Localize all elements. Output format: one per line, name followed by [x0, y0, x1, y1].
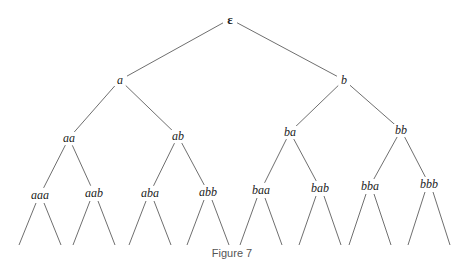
tree-edge — [154, 143, 175, 186]
tree-edge — [374, 137, 397, 179]
tree-edge — [74, 86, 114, 132]
tree-edge — [405, 137, 426, 177]
tree-node-aab: aab — [84, 187, 104, 199]
leaf-stub-edge — [299, 196, 316, 245]
leaf-stub-edge — [73, 201, 90, 245]
tree-node-ab: ab — [171, 130, 185, 142]
tree-node-a: a — [116, 74, 124, 86]
tree-node-b: b — [340, 74, 348, 86]
tree-node-root: ε — [226, 13, 234, 26]
tree-edge — [44, 145, 66, 188]
tree-node-aa: aa — [62, 132, 76, 144]
leaf-stub-edge — [374, 194, 391, 245]
leaf-stub-edge — [240, 198, 257, 245]
tree-edge — [350, 85, 395, 124]
tree-edge — [296, 86, 338, 127]
tree-node-bb: bb — [394, 124, 408, 136]
tree-edge — [265, 139, 287, 183]
leaf-stub-edge — [98, 201, 115, 245]
leaf-stub-edge — [44, 203, 61, 245]
leaf-stub-edge — [265, 198, 282, 245]
tree-diagram: εabaaabbabbaaaaababaabbbaababbbabbb Figu… — [0, 0, 464, 270]
tree-edge — [72, 145, 90, 185]
leaf-stub-edge — [433, 192, 450, 245]
leaf-stub-edge — [187, 200, 204, 245]
leaf-stub-edge — [19, 203, 36, 245]
tree-edge — [127, 23, 223, 76]
leaf-stub-edge — [324, 196, 341, 245]
tree-node-baa: baa — [251, 184, 271, 196]
tree-node-bbb: bbb — [419, 178, 439, 190]
tree-edge — [182, 143, 204, 185]
tree-node-ba: ba — [283, 126, 297, 138]
leaf-stub-edge — [408, 192, 425, 245]
tree-edge — [237, 23, 337, 76]
leaf-stub-edge — [212, 200, 229, 245]
tree-node-abb: abb — [198, 186, 218, 198]
tree-node-bab: bab — [310, 182, 330, 194]
tree-edge — [294, 139, 316, 181]
tree-node-aba: aba — [140, 187, 160, 199]
leaf-stub-edge — [349, 194, 366, 245]
figure-caption: Figure 7 — [212, 247, 252, 259]
leaf-stub-edge — [154, 201, 171, 245]
tree-node-bba: bba — [360, 180, 380, 192]
leaf-stub-edge — [129, 201, 146, 245]
tree-node-aaa: aaa — [30, 189, 50, 201]
tree-edge — [126, 86, 172, 131]
